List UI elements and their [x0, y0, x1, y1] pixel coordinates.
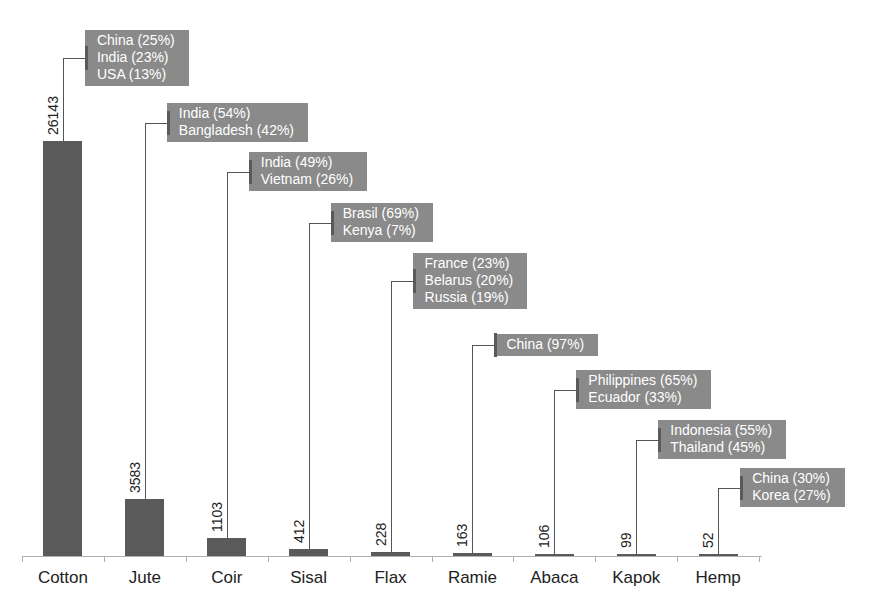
annotation-line: Philippines (65%): [588, 372, 697, 389]
leader-hook: [309, 223, 331, 224]
bar-kapok: [617, 554, 656, 556]
leader-line: [472, 345, 473, 553]
annotation-line: Bangladesh (42%): [179, 122, 294, 139]
value-label: 1103: [210, 502, 224, 532]
category-label: Jute: [105, 568, 185, 588]
x-axis: [22, 556, 762, 557]
annotation-line: Russia (19%): [425, 289, 514, 306]
leader-hook: [554, 390, 576, 391]
annotation-line: China (97%): [506, 336, 584, 353]
value-label: 228: [374, 523, 388, 546]
annotation-connector-mark: [494, 333, 497, 357]
category-label: Kapok: [596, 568, 676, 588]
annotation-line: Indonesia (55%): [670, 422, 772, 439]
leader-hook: [718, 488, 740, 489]
value-label: 163: [455, 524, 469, 547]
annotation-connector-mark: [249, 160, 252, 184]
x-axis-tick: [268, 556, 269, 562]
producer-annotation: India (49%)Vietnam (26%): [249, 152, 367, 191]
category-label: Cotton: [23, 568, 103, 588]
leader-line: [309, 223, 310, 550]
category-label: Sisal: [269, 568, 349, 588]
producer-annotation: India (54%)Bangladesh (42%): [167, 103, 308, 142]
bar-ramie: [453, 553, 492, 556]
leader-hook: [145, 123, 167, 124]
leader-line: [718, 488, 719, 555]
x-axis-tick: [22, 556, 23, 562]
annotation-connector-mark: [576, 378, 579, 402]
category-label: Coir: [187, 568, 267, 588]
value-label: 99: [619, 532, 633, 548]
annotation-line: France (23%): [425, 255, 514, 272]
x-axis-tick: [595, 556, 596, 562]
annotation-line: India (54%): [179, 105, 294, 122]
category-label: Hemp: [678, 568, 758, 588]
category-label: Ramie: [432, 568, 512, 588]
annotation-line: Thailand (45%): [670, 439, 772, 456]
x-axis-tick: [432, 556, 433, 562]
bar-sisal: [289, 549, 328, 556]
leader-line: [636, 440, 637, 555]
leader-line: [554, 390, 555, 555]
annotation-line: Vietnam (26%): [261, 171, 353, 188]
annotation-connector-mark: [167, 111, 170, 135]
annotation-line: Brasil (69%): [343, 205, 419, 222]
leader-line: [227, 172, 228, 539]
leader-hook: [391, 281, 413, 282]
bar-coir: [207, 538, 246, 556]
leader-line: [63, 58, 64, 141]
producer-annotation: China (30%)Korea (27%): [740, 468, 845, 507]
fiber-production-bar-chart: CottonChina (25%)India (23%)USA (13%)261…: [0, 0, 873, 612]
annotation-line: India (23%): [97, 49, 175, 66]
annotation-connector-mark: [413, 269, 416, 293]
leader-hook: [636, 440, 658, 441]
annotation-line: China (25%): [97, 32, 175, 49]
bar-jute: [125, 499, 164, 556]
leader-line: [391, 281, 392, 552]
producer-annotation: Philippines (65%)Ecuador (33%): [576, 370, 711, 409]
annotation-connector-mark: [85, 46, 88, 70]
annotation-connector-mark: [740, 476, 743, 500]
annotation-line: Belarus (20%): [425, 272, 514, 289]
annotation-line: USA (13%): [97, 66, 175, 83]
bar-abaca: [535, 554, 574, 556]
annotation-line: Kenya (7%): [343, 222, 419, 239]
leader-hook: [227, 172, 249, 173]
producer-annotation: Brasil (69%)Kenya (7%): [331, 203, 433, 242]
annotation-line: Ecuador (33%): [588, 389, 697, 406]
x-axis-tick: [104, 556, 105, 562]
value-label: 106: [537, 525, 551, 548]
x-axis-tick: [677, 556, 678, 562]
value-label: 412: [292, 520, 306, 543]
annotation-line: China (30%): [752, 470, 831, 487]
producer-annotation: China (25%)India (23%)USA (13%): [85, 30, 189, 86]
leader-line: [145, 123, 146, 500]
bar-hemp: [699, 554, 738, 556]
producer-annotation: China (97%): [494, 334, 598, 356]
annotation-line: Korea (27%): [752, 487, 831, 504]
category-label: Flax: [351, 568, 431, 588]
x-axis-tick: [759, 556, 760, 562]
annotation-connector-mark: [658, 428, 661, 452]
x-axis-tick: [350, 556, 351, 562]
x-axis-tick: [186, 556, 187, 562]
annotation-connector-mark: [331, 211, 334, 235]
leader-hook: [63, 58, 85, 59]
value-label: 52: [701, 532, 715, 548]
category-label: Abaca: [514, 568, 594, 588]
annotation-line: India (49%): [261, 154, 353, 171]
bar-cotton: [43, 141, 82, 556]
producer-annotation: France (23%)Belarus (20%)Russia (19%): [413, 253, 528, 309]
x-axis-tick: [513, 556, 514, 562]
value-label: 3583: [128, 462, 142, 493]
producer-annotation: Indonesia (55%)Thailand (45%): [658, 420, 786, 459]
bar-flax: [371, 552, 410, 556]
value-label: 26143: [46, 96, 60, 135]
leader-hook: [472, 345, 494, 346]
